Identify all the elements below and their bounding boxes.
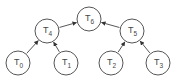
nodes: T6T4T5T0T1T2T3 xyxy=(6,7,170,75)
node-t6: T6 xyxy=(77,7,101,31)
edge-t5-to-t6 xyxy=(102,22,120,27)
node-t3: T3 xyxy=(146,51,170,75)
node-t0: T0 xyxy=(6,51,30,75)
node-t2: T2 xyxy=(99,51,123,75)
edge-t3-to-t5 xyxy=(140,41,150,53)
edge-t0-to-t4 xyxy=(27,41,39,54)
edge-t2-to-t5 xyxy=(118,42,125,52)
tree-diagram: T6T4T5T0T1T2T3 xyxy=(0,0,177,83)
node-t4: T4 xyxy=(35,19,59,43)
node-t5: T5 xyxy=(120,19,144,43)
edge-t1-to-t4 xyxy=(54,42,60,52)
edge-t4-to-t6 xyxy=(59,23,76,28)
node-t1: T1 xyxy=(54,51,78,75)
